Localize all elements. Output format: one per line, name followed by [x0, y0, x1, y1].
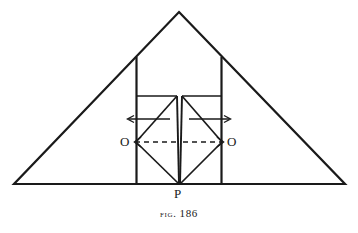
inner-triangle-left-lower-diagonal — [136, 142, 179, 184]
figure-caption: Fig. 186 — [0, 207, 358, 219]
figure-caption-prefix: Fig. — [160, 208, 180, 219]
outer-triangle — [14, 12, 345, 184]
center-gap-right-line — [180, 96, 182, 184]
center-gap-left-line — [177, 96, 179, 184]
inner-triangle-right-lower-diagonal — [180, 142, 222, 184]
figure-container: O O P Fig. 186 — [0, 0, 358, 233]
label-apex-point-p: P — [174, 187, 181, 200]
figure-caption-number: 186 — [180, 207, 198, 219]
label-origin-right: O — [227, 135, 236, 148]
label-origin-left: O — [120, 135, 129, 148]
